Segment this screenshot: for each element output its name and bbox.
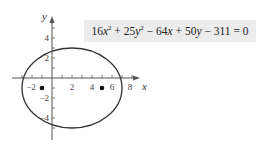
focus-point-left <box>40 86 45 91</box>
y-axis-arrow-icon <box>50 16 55 23</box>
y-axis-label: y <box>41 10 47 22</box>
equation-box: 16x2 + 25y2 − 64x + 50y − 311 = 0 <box>84 20 256 42</box>
x-tick-label: 4 <box>90 82 95 92</box>
x-tick-label: −2 <box>26 82 36 92</box>
x-axis-label: x <box>141 80 147 92</box>
x-tick-label: 8 <box>128 82 133 92</box>
x-tick-label: 2 <box>70 82 75 92</box>
y-tick-label: −2 <box>39 93 49 103</box>
y-tick-label: 4 <box>45 33 50 43</box>
equation-text: 16x2 + 25y2 − 64x + 50y − 311 = 0 <box>84 20 256 42</box>
focus-point-right <box>100 86 105 91</box>
x-tick-label: 6 <box>110 82 115 92</box>
x-axis-arrow-icon <box>133 76 140 81</box>
